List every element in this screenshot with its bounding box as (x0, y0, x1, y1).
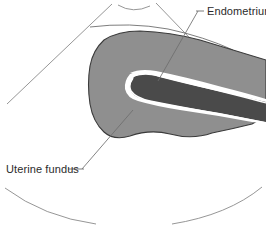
label-endometrium: Endometrium (207, 5, 266, 17)
diagram-canvas: Endometrium Uterine fundus (0, 0, 266, 226)
ultrasound-diagram-figure: Endometrium Uterine fundus (0, 0, 266, 226)
sector-bottom-arc-left (5, 188, 96, 224)
label-uterine-fundus: Uterine fundus (6, 163, 79, 175)
sector-bottom-arc-right (172, 187, 262, 224)
apex-arc-icon (118, 5, 150, 10)
